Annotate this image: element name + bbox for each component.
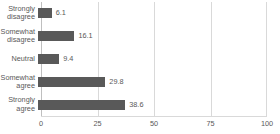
bar-row-somewhat-agree: Somewhat agree 29.8 (0, 70, 280, 93)
x-tick-label-25: 25 (93, 119, 101, 128)
bar-rows: Strongly disagree 6.1 Somewhat disagree … (0, 2, 280, 116)
category-label-strongly-agree: Strongly agree (0, 96, 38, 112)
category-label-somewhat-agree: Somewhat agree (0, 74, 38, 90)
bar-wrap-somewhat-disagree: 16.1 (38, 25, 264, 48)
category-label-strongly-disagree: Strongly disagree (0, 5, 38, 21)
bar-chart: Strongly disagree 6.1 Somewhat disagree … (0, 0, 280, 134)
bar-value-neutral: 9.4 (63, 55, 73, 63)
bar-somewhat-agree (38, 77, 105, 87)
bar-wrap-strongly-agree: 38.6 (38, 93, 264, 116)
x-tick-label-100: 100 (261, 119, 273, 128)
bar-somewhat-disagree (38, 31, 74, 41)
bar-row-somewhat-disagree: Somewhat disagree 16.1 (0, 25, 280, 48)
bar-row-strongly-disagree: Strongly disagree 6.1 (0, 2, 280, 25)
bar-value-strongly-agree: 38.6 (129, 101, 143, 109)
x-axis-baseline (41, 116, 267, 117)
bar-value-somewhat-disagree: 16.1 (78, 32, 92, 40)
bar-row-strongly-agree: Strongly agree 38.6 (0, 93, 280, 116)
x-tick-label-0: 0 (39, 119, 43, 128)
x-tick-label-75: 75 (206, 119, 214, 128)
bar-wrap-somewhat-agree: 29.8 (38, 70, 264, 93)
x-tick-label-50: 50 (150, 119, 158, 128)
bar-wrap-neutral: 9.4 (38, 48, 264, 71)
x-axis-tick-labels: 0 25 50 75 100 (41, 119, 267, 131)
bar-strongly-agree (38, 100, 125, 110)
category-label-somewhat-disagree: Somewhat disagree (0, 28, 38, 44)
bar-strongly-disagree (38, 8, 52, 18)
bar-wrap-strongly-disagree: 6.1 (38, 2, 264, 25)
bar-neutral (38, 54, 59, 64)
bar-value-somewhat-agree: 29.8 (109, 78, 123, 86)
category-label-neutral: Neutral (0, 55, 38, 63)
bar-value-strongly-disagree: 6.1 (56, 9, 66, 17)
bar-row-neutral: Neutral 9.4 (0, 48, 280, 71)
